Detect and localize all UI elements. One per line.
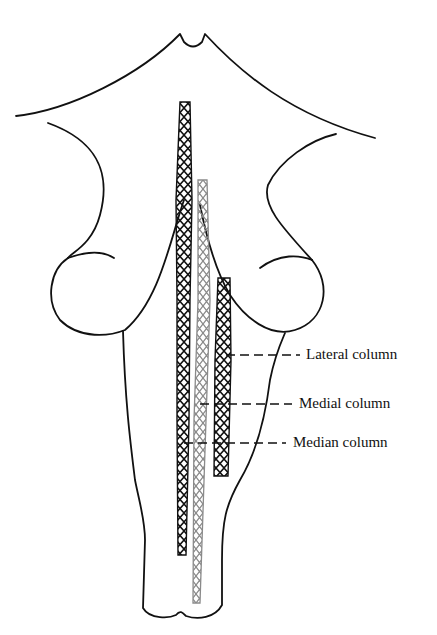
medial-column-label: Medial column [299,396,390,411]
median-column [176,102,192,555]
medial-column [193,180,210,603]
lateral-column [214,278,231,476]
median-column-label: Median column [293,435,388,450]
lateral-column-label: Lateral column [306,347,397,362]
brainstem-diagram [0,0,437,635]
